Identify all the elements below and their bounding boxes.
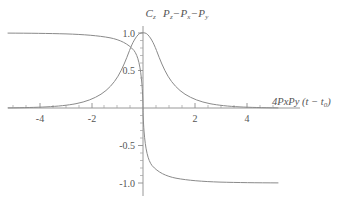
x-tick-label-pos4: 4 — [245, 113, 250, 124]
xlabel-minus: − — [308, 96, 320, 107]
y-tick-label-neg1: -1.0 — [119, 178, 135, 189]
title-cz: Cz — [145, 7, 155, 19]
x-tick-label-neg4: -4 — [36, 113, 44, 124]
xlabel-py: Py — [288, 96, 299, 107]
x-tick-label-pos2: 2 — [193, 113, 198, 124]
y-tick-label-neg05: -0.5 — [119, 140, 135, 151]
y-tick-label-1: 1.0 — [123, 28, 136, 39]
title-px: Px — [180, 7, 190, 19]
title-py: Py — [198, 7, 208, 19]
y-tick-label-05: 0.5 — [123, 65, 136, 76]
x-tick-label-neg2: -2 — [88, 113, 96, 124]
x-axis-major-ticks — [40, 103, 247, 108]
xlabel-px: Px — [277, 96, 288, 107]
xlabel-paren-close: ) — [327, 96, 331, 107]
x-axis-label: 4PxPy (t − t0) — [272, 96, 331, 109]
title-pz: Pz — [163, 7, 173, 19]
plot-title: CzPz−Px−Py — [0, 7, 354, 21]
plot-figure: CzPz−Px−Py — [0, 0, 354, 203]
